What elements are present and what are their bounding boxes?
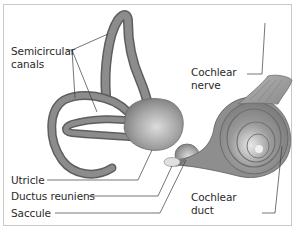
label-ductus-reuniens: Ductus reuniens xyxy=(11,190,95,203)
label-cochlear-duct: Cochlear duct xyxy=(191,191,237,216)
cochlea xyxy=(180,97,291,177)
label-semicircular-line2: canals xyxy=(11,58,75,71)
label-semicircular-canals: Semicircular canals xyxy=(11,45,75,70)
label-cochlear-nerve: Cochlear nerve xyxy=(191,66,237,91)
label-cochlear-duct-line2: duct xyxy=(191,204,237,217)
label-saccule: Saccule xyxy=(11,207,51,220)
leader-cochlear-nerve xyxy=(247,23,265,74)
utricle-vestibule xyxy=(124,99,183,151)
label-cochlear-nerve-line1: Cochlear xyxy=(191,66,237,79)
label-cochlear-nerve-line2: nerve xyxy=(191,79,237,92)
label-utricle: Utricle xyxy=(11,174,45,187)
leader-semicircular-canals-3 xyxy=(72,50,97,112)
label-semicircular-line1: Semicircular xyxy=(11,45,75,58)
label-cochlear-duct-line1: Cochlear xyxy=(191,191,237,204)
cochlear-nerve xyxy=(238,75,292,104)
